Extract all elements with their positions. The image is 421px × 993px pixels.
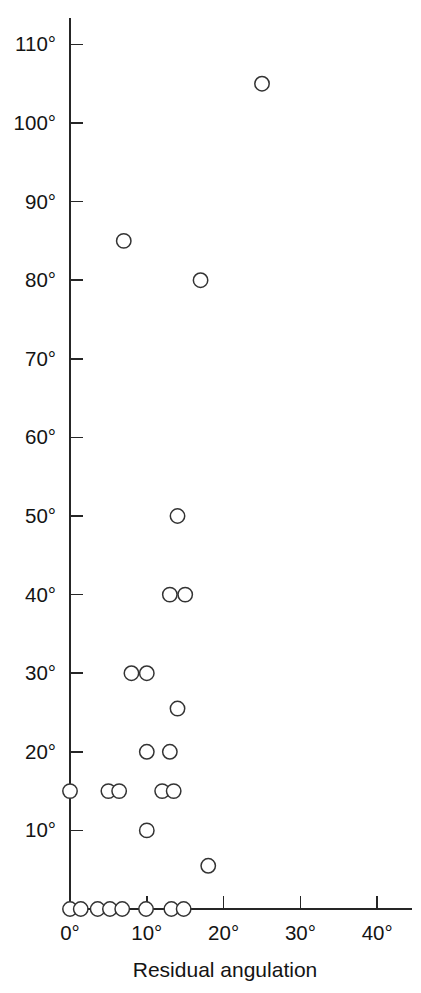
x-tick-label-10: 10° [131, 921, 162, 944]
data-point [74, 902, 88, 916]
y-tick-label-60: 60° [25, 425, 56, 448]
y-tick-label-70: 70° [25, 347, 56, 370]
plot-canvas: 10°20°30°40°50°60°70°80°90°100°110° 0°10… [0, 0, 421, 993]
y-axis: 10°20°30°40°50°60°70°80°90°100°110° [14, 18, 83, 909]
y-tick-label-80: 80° [25, 268, 56, 291]
x-axis-title: Residual angulation [133, 958, 317, 981]
x-tick-label-30: 30° [285, 921, 316, 944]
x-tick-label-0: 0° [60, 921, 80, 944]
scatter-plot-figure: 10°20°30°40°50°60°70°80°90°100°110° 0°10… [0, 0, 421, 993]
x-axis-tick-labels: 0°10°20°30°40° [60, 921, 393, 944]
data-point [170, 701, 184, 715]
data-point [124, 666, 138, 680]
x-tick-label-40: 40° [362, 921, 393, 944]
data-point [193, 273, 207, 287]
data-point [140, 823, 154, 837]
data-point [201, 859, 215, 873]
data-point [140, 745, 154, 759]
data-point [255, 77, 269, 91]
data-point [115, 902, 129, 916]
data-point [166, 784, 180, 798]
y-axis-tick-labels: 10°20°30°40°50°60°70°80°90°100°110° [14, 32, 56, 841]
y-axis-ticks [70, 44, 83, 830]
data-point [163, 745, 177, 759]
y-tick-label-20: 20° [25, 740, 56, 763]
data-point [170, 509, 184, 523]
y-tick-label-30: 30° [25, 661, 56, 684]
data-point [112, 784, 126, 798]
clipped-title-text [0, 0, 421, 3]
y-tick-label-90: 90° [25, 190, 56, 213]
data-point [176, 902, 190, 916]
data-point [139, 902, 153, 916]
data-point-series [63, 77, 269, 917]
data-point [63, 784, 77, 798]
y-tick-label-100: 100° [14, 111, 56, 134]
data-point [117, 234, 131, 248]
y-tick-label-40: 40° [25, 583, 56, 606]
x-tick-label-20: 20° [208, 921, 239, 944]
y-tick-label-50: 50° [25, 504, 56, 527]
data-point [140, 666, 154, 680]
y-tick-label-110: 110° [15, 32, 56, 55]
y-tick-label-10: 10° [25, 818, 56, 841]
data-point [178, 587, 192, 601]
data-point [163, 587, 177, 601]
